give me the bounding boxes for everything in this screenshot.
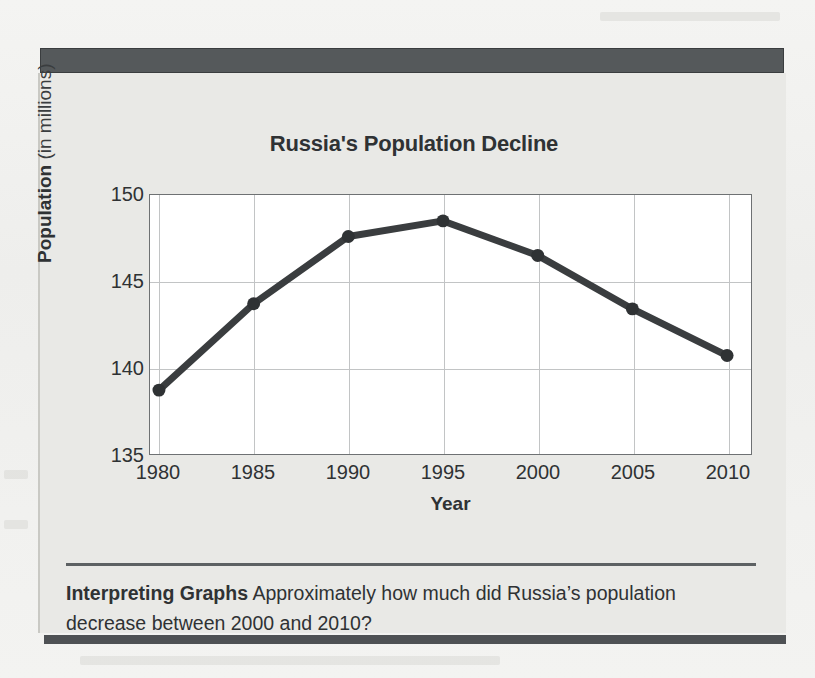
y-tick-140: 140 [84,357,144,380]
data-point-2010 [721,349,734,362]
x-tick-2005: 2005 [588,461,678,484]
y-axis-label-rest: (in millions) [34,63,55,164]
figure-panel: Russia's Population Decline Population (… [38,46,786,646]
caption-divider [66,563,756,566]
data-point-2000 [531,249,544,262]
data-point-1995 [437,214,450,227]
panel-top-bar [40,48,784,73]
population-series [150,195,751,454]
panel-bottom-bar [44,635,786,644]
data-point-2005 [626,302,639,315]
y-axis-label: Population (in millions) [34,63,56,263]
panel-body: Russia's Population Decline Population (… [38,73,786,633]
x-tick-labels: 1980 1985 1990 1995 2000 2005 2010 [149,461,752,491]
chart-area: Population (in millions) 150 145 140 135 [40,73,788,523]
data-point-1985 [247,297,260,310]
y-axis-label-bold: Population [34,165,55,263]
x-tick-1995: 1995 [398,461,488,484]
x-tick-1980: 1980 [113,461,203,484]
caption-label: Interpreting Graphs [66,582,248,604]
x-tick-2000: 2000 [493,461,583,484]
plot-area [149,194,752,455]
data-point-1990 [342,230,355,243]
y-tick-150: 150 [84,183,144,206]
data-point-1980 [152,384,165,397]
y-tick-145: 145 [84,270,144,293]
y-tick-labels: 150 145 140 135 [78,194,144,455]
x-axis-label: Year [149,493,752,515]
x-tick-1985: 1985 [208,461,298,484]
caption: Interpreting Graphs Approximately how mu… [66,578,746,638]
x-tick-2010: 2010 [683,461,773,484]
x-tick-1990: 1990 [303,461,393,484]
